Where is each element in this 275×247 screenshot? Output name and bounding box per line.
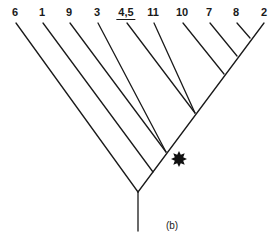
branch-6 bbox=[16, 23, 138, 192]
tip-label-1: 1 bbox=[39, 6, 45, 19]
tip-label-9: 9 bbox=[66, 6, 72, 19]
cladogram: 6 1 9 3 4,5 11 10 7 8 2 (b) bbox=[0, 0, 275, 247]
tree-branches bbox=[0, 0, 275, 247]
branch-7 bbox=[210, 23, 237, 56]
tip-label-2: 2 bbox=[261, 6, 267, 19]
tip-label-3: 3 bbox=[94, 6, 100, 19]
branch-3 bbox=[98, 23, 166, 152]
tip-label-6: 6 bbox=[12, 6, 18, 19]
tip-label-8: 8 bbox=[233, 6, 239, 19]
branch-9 bbox=[70, 23, 166, 152]
figure-caption: (b) bbox=[166, 220, 178, 231]
branch-11 bbox=[154, 23, 195, 113]
tip-label-10: 10 bbox=[176, 6, 188, 19]
branch-10 bbox=[183, 23, 224, 74]
branch-4-5 bbox=[127, 23, 195, 113]
branch-1 bbox=[43, 23, 153, 172]
main-spine bbox=[138, 23, 264, 192]
branch-8 bbox=[237, 23, 250, 38]
tip-label-11: 11 bbox=[147, 6, 159, 19]
starburst-icon bbox=[171, 151, 187, 167]
tip-label-4-5: 4,5 bbox=[116, 6, 135, 20]
tip-label-7: 7 bbox=[206, 6, 212, 19]
